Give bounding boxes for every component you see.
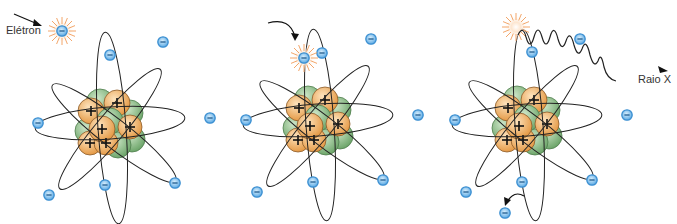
panel-xray-emission [450, 13, 668, 222]
atom-diagram [0, 0, 677, 224]
curved-arrow-icon [268, 22, 295, 37]
xray-label: Raio X [638, 73, 671, 85]
panel-electron-collision [241, 22, 423, 222]
orbital-electron [105, 50, 115, 60]
ejected-electron [500, 208, 510, 218]
incident-electron [57, 26, 67, 36]
electron-label: Elétron [6, 24, 41, 36]
panel-incoming-electron [14, 14, 215, 224]
